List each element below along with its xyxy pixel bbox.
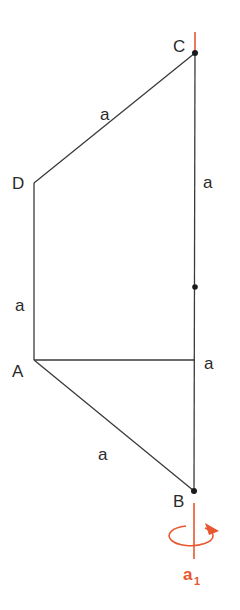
edge-ab <box>34 360 194 491</box>
edge-label-a-horizontal: a <box>204 354 214 373</box>
edge-label-ab: a <box>98 445 108 464</box>
vertex-label-c: C <box>173 37 185 56</box>
rotation-arrow-icon <box>169 526 213 546</box>
edge-cb-vertical <box>194 53 195 491</box>
midpoint-dot <box>192 284 198 290</box>
vertex-b-dot <box>191 488 197 494</box>
edge-label-cd: a <box>100 105 110 124</box>
vertex-label-a: A <box>12 362 24 381</box>
edge-cd <box>34 53 195 183</box>
rotation-arrowhead-icon <box>205 523 219 535</box>
axis-label: a <box>183 565 193 584</box>
edge-label-da: a <box>15 296 25 315</box>
vertex-label-b: B <box>173 492 184 511</box>
vertex-label-d: D <box>12 174 24 193</box>
vertex-c-dot <box>192 50 198 56</box>
axis-label-subscript: 1 <box>194 575 200 587</box>
rotation-diagram: C D A B a a a a a a 1 <box>0 0 240 610</box>
edge-label-c-mid: a <box>203 173 213 192</box>
